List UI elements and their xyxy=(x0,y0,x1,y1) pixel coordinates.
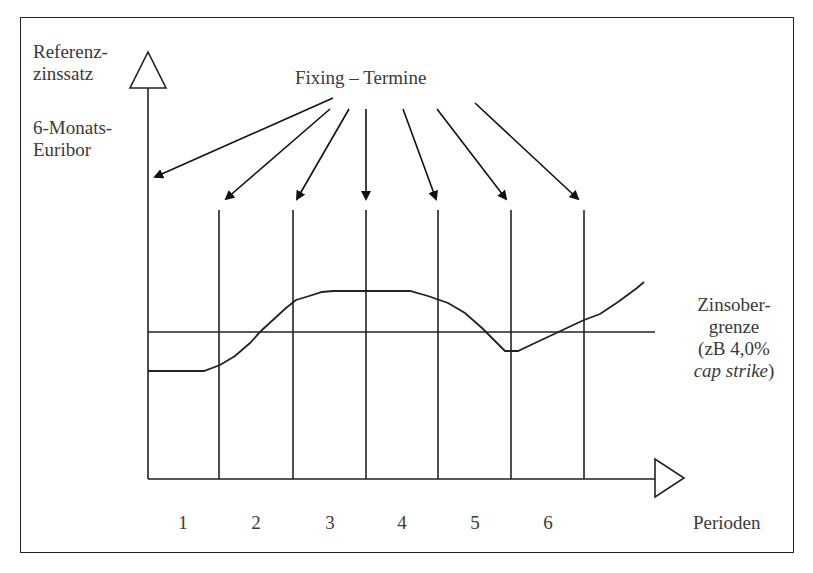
y-axis-label-line2: zinssatz xyxy=(33,63,108,85)
cap-label-line4: cap strike) xyxy=(682,360,786,382)
period-6: 6 xyxy=(538,512,558,534)
rate-label-line1: 6-Monats- xyxy=(33,117,112,139)
cap-label-line2: grenze xyxy=(682,316,786,338)
x-axis-label: Perioden xyxy=(693,512,761,534)
period-2: 2 xyxy=(246,512,266,534)
period-1: 1 xyxy=(173,512,193,534)
rate-label: 6-Monats- Euribor xyxy=(33,117,112,161)
y-axis-arrow-icon xyxy=(130,52,166,88)
cap-label-line1: Zinsober- xyxy=(682,294,786,316)
period-4: 4 xyxy=(392,512,412,534)
period-5: 5 xyxy=(465,512,485,534)
cap-label-line3: (zB 4,0% xyxy=(682,338,786,360)
cap-label: Zinsober- grenze (zB 4,0% cap strike) xyxy=(682,294,786,382)
reference-rate-curve xyxy=(148,282,644,371)
period-3: 3 xyxy=(320,512,340,534)
rate-label-line2: Euribor xyxy=(33,139,112,161)
y-axis-label: Referenz- zinssatz xyxy=(33,41,108,85)
cap-label-suffix: ) xyxy=(768,360,774,381)
fixing-dates-label: Fixing – Termine xyxy=(295,67,426,89)
y-axis-label-line1: Referenz- xyxy=(33,41,108,63)
x-axis-arrow-icon xyxy=(655,459,684,497)
cap-strike-italic: cap strike xyxy=(694,360,768,381)
